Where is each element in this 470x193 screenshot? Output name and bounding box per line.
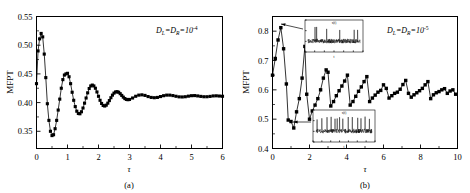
figure-container: 0.350.400.450.500.55 0123456 MFPT τ (a) … (0, 0, 470, 193)
data-marker (61, 78, 64, 81)
panel-a-x-ticks: 0123456 (34, 145, 224, 162)
data-marker (335, 94, 338, 97)
data-marker (404, 79, 407, 82)
data-marker (108, 99, 111, 102)
data-marker (52, 133, 55, 136)
y-tick-label: 0.6 (258, 85, 269, 95)
data-marker (300, 76, 303, 79)
panel-a-y-axis-label: MFPT (5, 70, 15, 94)
data-marker (68, 75, 71, 78)
data-marker (343, 79, 346, 82)
data-marker (38, 37, 41, 40)
x-tick-label: 4 (158, 152, 163, 162)
data-marker (454, 93, 457, 96)
data-marker (209, 95, 212, 98)
data-marker (71, 91, 74, 94)
data-marker (97, 95, 100, 98)
data-marker (385, 87, 388, 90)
data-marker (271, 73, 274, 76)
data-marker (212, 94, 215, 97)
panel-a: 0.350.400.450.500.55 0123456 MFPT τ (a) … (0, 0, 235, 193)
x-tick-label: 6 (381, 152, 385, 162)
data-marker (47, 119, 50, 122)
data-marker (80, 110, 83, 113)
y-tick-label: 0.55 (18, 12, 33, 22)
bottom-inset-x-label: t (344, 145, 345, 149)
x-tick-label: 1 (65, 152, 69, 162)
y-tick-label: 0.35 (18, 126, 33, 136)
x-tick-label: 2 (307, 152, 311, 162)
data-marker (165, 94, 168, 97)
data-marker (190, 94, 193, 97)
data-marker (332, 100, 335, 103)
data-marker (85, 96, 88, 99)
data-marker (274, 57, 277, 60)
data-marker (74, 105, 77, 108)
data-marker (205, 95, 208, 98)
data-marker (193, 94, 196, 97)
data-marker (349, 103, 352, 106)
data-marker (134, 95, 137, 98)
data-marker (40, 32, 43, 35)
x-tick-label: 0 (270, 152, 274, 162)
y-tick-label: 0.5 (258, 114, 269, 124)
panel-a-letter: (a) (124, 180, 134, 190)
data-marker (140, 93, 143, 96)
data-marker (196, 94, 199, 97)
data-marker (379, 89, 382, 92)
top-inset-title: x(t) (332, 21, 337, 25)
panel-a-x-axis-label: τ (127, 164, 131, 174)
top-inset: x(t) t (281, 20, 363, 59)
data-marker (99, 99, 102, 102)
data-marker (360, 85, 363, 88)
data-marker (329, 104, 332, 107)
data-marker (407, 92, 410, 95)
data-marker (174, 95, 177, 98)
data-marker (184, 95, 187, 98)
y-tick-label: 0.40 (18, 98, 33, 108)
data-marker (368, 100, 371, 103)
data-marker (55, 119, 58, 122)
data-marker (72, 99, 75, 102)
data-marker (289, 120, 292, 123)
data-marker (58, 98, 61, 101)
panel-a-annotation: DL=DR=10-4 (155, 25, 198, 36)
y-tick-label: 0.4 (258, 144, 269, 154)
data-marker (143, 94, 146, 97)
panel-b-y-ticks: 0.40.50.60.70.8 (258, 26, 277, 153)
data-marker (365, 75, 368, 78)
data-marker (282, 47, 285, 50)
x-tick-label: 8 (418, 152, 422, 162)
x-tick-label: 6 (220, 152, 224, 162)
data-marker (337, 89, 340, 92)
data-marker (443, 87, 446, 90)
data-marker (451, 88, 454, 91)
panel-b-y-axis-label: MFPT (241, 70, 251, 94)
data-marker (168, 94, 171, 97)
panel-b-annotation: DL=DR=10-5 (386, 25, 429, 36)
data-marker (94, 87, 97, 90)
x-tick-label: 0 (34, 152, 38, 162)
x-tick-label: 10 (453, 152, 462, 162)
data-marker (95, 90, 98, 93)
y-tick-label: 0.7 (258, 56, 269, 66)
data-marker (202, 95, 205, 98)
x-tick-label: 2 (96, 152, 100, 162)
data-marker (371, 96, 374, 99)
data-marker (218, 94, 221, 97)
data-marker (398, 88, 401, 91)
x-tick-label: 3 (127, 152, 131, 162)
data-marker (57, 109, 60, 112)
panel-b-svg: 0.40.50.60.70.8 0246810 x(t) t x(t) t (235, 0, 470, 193)
data-marker (326, 71, 329, 74)
data-marker (41, 35, 44, 38)
data-marker (81, 106, 84, 109)
data-marker (285, 82, 288, 85)
data-marker (276, 38, 279, 41)
data-marker (298, 97, 301, 100)
data-marker (159, 95, 162, 98)
panel-a-frame (37, 17, 223, 149)
bottom-inset-title: x(t) (342, 111, 347, 115)
data-marker (295, 110, 298, 113)
panel-b: 0.40.50.60.70.8 0246810 x(t) t x(t) t (235, 0, 470, 193)
